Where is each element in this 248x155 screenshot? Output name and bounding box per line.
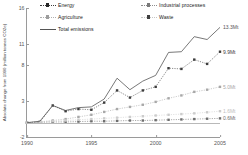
emissions-change-chart: Energy Industrial processes Agriculture … — [0, 0, 248, 155]
data-point — [142, 104, 144, 106]
x-tick-label: 1990 — [21, 137, 33, 146]
data-point — [142, 115, 144, 117]
data-point — [154, 114, 156, 116]
data-point — [116, 108, 118, 110]
data-point — [129, 119, 131, 121]
data-point — [206, 63, 208, 65]
data-point — [219, 86, 221, 88]
series-layer — [27, 8, 220, 137]
data-point — [77, 116, 79, 118]
y-axis-title: Absolute change from 1990 (million tonne… — [0, 8, 9, 137]
data-point — [90, 118, 92, 120]
x-tick-label: 2005 — [214, 137, 226, 146]
x-tick-label: 1995 — [85, 137, 97, 146]
data-point — [64, 119, 66, 121]
series-end-label: 9.9Mt — [223, 49, 236, 55]
data-point — [180, 113, 182, 115]
data-point — [167, 114, 169, 116]
data-point — [206, 89, 208, 91]
series-end-label: 0.6Mt — [223, 115, 236, 121]
data-point — [103, 101, 105, 103]
y-tick-label: 11 — [19, 41, 27, 47]
data-point — [206, 118, 208, 120]
x-tick-label: 2000 — [150, 137, 162, 146]
y-tick-label: 3 — [22, 98, 27, 104]
data-point — [129, 116, 131, 118]
series-line-total-emissions — [27, 27, 220, 122]
data-point — [129, 106, 131, 108]
data-point — [116, 116, 118, 118]
data-point — [116, 89, 118, 91]
data-point — [219, 117, 221, 119]
data-point — [206, 111, 208, 113]
data-point — [180, 68, 182, 70]
data-point — [180, 118, 182, 120]
data-point — [219, 51, 221, 53]
series-end-label: 5.0Mt — [223, 84, 236, 90]
data-point — [90, 109, 92, 111]
data-point — [142, 119, 144, 121]
y-tick-label: 16 — [19, 5, 27, 11]
data-point — [154, 86, 156, 88]
data-point — [77, 119, 79, 121]
data-point — [193, 112, 195, 114]
data-point — [103, 111, 105, 113]
plot-area: 161183-219901995200020059.9Mt0.6Mt5.0Mt1… — [26, 8, 220, 138]
data-point — [180, 94, 182, 96]
data-point — [90, 114, 92, 116]
data-point — [142, 89, 144, 91]
series-end-label: 1.6Mt — [223, 108, 236, 114]
series-line-energy — [27, 52, 220, 123]
data-point — [167, 67, 169, 69]
data-point — [193, 91, 195, 93]
data-point — [219, 110, 221, 112]
y-tick-label: 8 — [22, 62, 27, 68]
data-point — [103, 117, 105, 119]
data-point — [193, 58, 195, 60]
data-point — [154, 101, 156, 103]
data-point — [129, 96, 131, 98]
data-point — [193, 118, 195, 120]
zero-baseline — [27, 123, 220, 124]
data-point — [167, 119, 169, 121]
data-point — [154, 119, 156, 121]
data-point — [167, 97, 169, 99]
series-end-label: 13.3Mt — [223, 24, 238, 30]
